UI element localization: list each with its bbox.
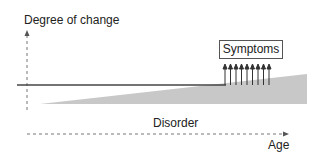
disorder-wedge — [40, 74, 307, 104]
x-axis-label: Age — [268, 138, 289, 152]
symptoms-box: Symptoms — [219, 40, 283, 59]
x-axis-arrowhead — [283, 132, 289, 137]
diagram-graphics — [0, 0, 323, 157]
symptom-arrows — [223, 64, 271, 85]
disorder-label: Disorder — [153, 116, 198, 130]
y-axis-arrowhead — [25, 30, 30, 36]
